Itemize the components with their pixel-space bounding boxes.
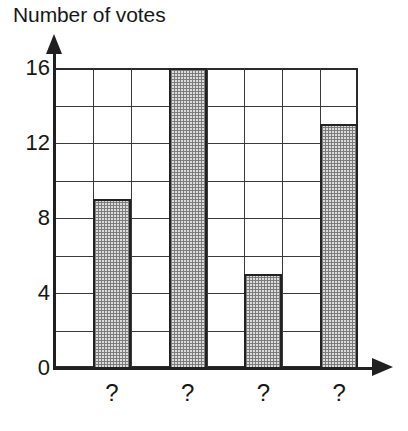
- x-tick-label: ?: [244, 378, 282, 408]
- y-tick-label: 12: [4, 132, 50, 154]
- y-axis-tick-labels: 0481216: [0, 0, 50, 431]
- right-arrow-icon: [372, 358, 393, 376]
- y-tick-label: 0: [4, 357, 50, 379]
- bar: [169, 68, 207, 368]
- y-tick-label: 4: [4, 282, 50, 304]
- gridline-vertical: [282, 68, 283, 368]
- x-axis-line: [53, 367, 374, 370]
- bar: [93, 199, 131, 368]
- x-tick-label: ?: [169, 378, 207, 408]
- y-tick-label: 16: [4, 57, 50, 79]
- x-tick-label: ?: [93, 378, 131, 408]
- bar-chart-figure: Number of votes 0481216 ????: [0, 0, 408, 431]
- bar: [244, 274, 282, 368]
- gridline-vertical: [207, 68, 208, 368]
- bar: [320, 124, 358, 368]
- y-axis-line: [53, 68, 56, 370]
- plot-area: [55, 68, 358, 368]
- x-axis-tick-labels: ????: [55, 378, 358, 418]
- x-tick-label: ?: [320, 378, 358, 408]
- gridline-vertical: [131, 68, 132, 368]
- y-tick-label: 8: [4, 207, 50, 229]
